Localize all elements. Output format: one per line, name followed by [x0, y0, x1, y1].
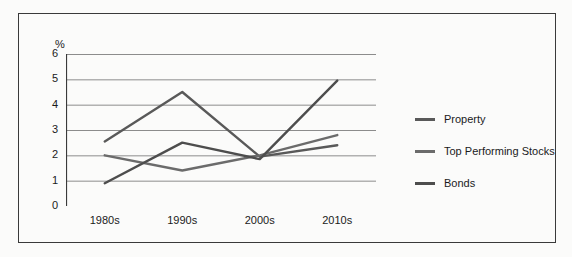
legend-item-label: Top Performing Stocks — [444, 145, 555, 157]
series-line-bonds — [105, 81, 338, 184]
legend-item: Bonds — [415, 170, 565, 196]
series-line-property — [105, 92, 338, 157]
line-chart-svg — [66, 54, 376, 206]
y-tick-label: 4 — [44, 98, 58, 110]
y-tick-label: 2 — [44, 148, 58, 160]
chart-frame: % 6543210 1980s1990s2000s2010s PropertyT… — [18, 13, 556, 243]
legend-line-icon — [415, 150, 435, 153]
legend-item-label: Property — [444, 113, 486, 125]
chart-screenshot: % 6543210 1980s1990s2000s2010s PropertyT… — [0, 0, 572, 257]
legend-item: Property — [415, 106, 565, 132]
x-tick-label: 1980s — [75, 214, 135, 226]
legend-line-icon — [415, 182, 435, 185]
y-tick-label: 0 — [44, 199, 58, 211]
legend-item: Top Performing Stocks — [415, 138, 565, 164]
legend-item-label: Bonds — [444, 177, 475, 189]
plot-area — [66, 54, 376, 206]
x-tick-label: 1990s — [152, 214, 212, 226]
x-tick-label: 2010s — [307, 214, 367, 226]
y-tick-label: 6 — [44, 47, 58, 59]
x-tick-label: 2000s — [230, 214, 290, 226]
y-tick-label: 5 — [44, 72, 58, 84]
legend-line-icon — [415, 118, 435, 121]
y-tick-label: 3 — [44, 123, 58, 135]
chart-legend: PropertyTop Performing StocksBonds — [415, 106, 565, 202]
y-tick-label: 1 — [44, 174, 58, 186]
